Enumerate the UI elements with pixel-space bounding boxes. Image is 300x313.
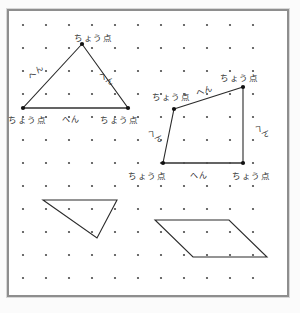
- label-edge-quadrilateral-right: へん: [190, 172, 207, 180]
- label-vertex-triangle-top-left: ちょう点: [100, 116, 138, 125]
- label-vertex-triangle-top-left: ちょう点: [74, 34, 112, 43]
- label-vertex-quadrilateral-right: ちょう点: [220, 74, 258, 83]
- worksheet-frame: [7, 9, 289, 297]
- worksheet-screenshot: ちょう点へんへんちょう点へんちょう点ちょう点へんちょう点へんへんちょう点へんちょ…: [0, 0, 300, 313]
- label-vertex-quadrilateral-right: ちょう点: [128, 172, 166, 181]
- label-vertex-quadrilateral-right: ちょう点: [152, 93, 190, 102]
- worksheet-frame-inner: [11, 13, 285, 293]
- label-vertex-quadrilateral-right: ちょう点: [232, 172, 270, 181]
- label-vertex-triangle-top-left: ちょう点: [8, 116, 46, 125]
- label-edge-triangle-top-left: へん: [62, 116, 79, 124]
